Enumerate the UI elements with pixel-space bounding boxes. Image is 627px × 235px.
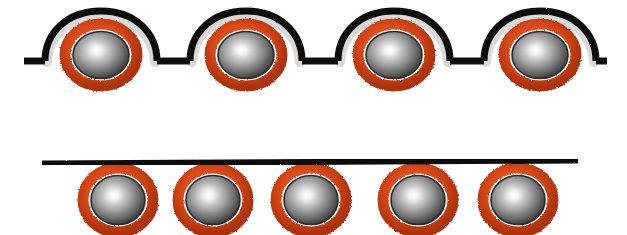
particle-core [91, 176, 145, 225]
particle-top-4 [504, 24, 576, 86]
particle-bottom-3 [276, 168, 346, 232]
particle-core [512, 32, 568, 79]
membrane-line-bottom [42, 161, 578, 164]
particle-core [366, 32, 422, 79]
particle-core [218, 32, 274, 79]
particle-top-1 [65, 24, 137, 86]
particle-top-3 [358, 24, 430, 86]
particle-core [73, 32, 129, 79]
particle-membrane-diagram [0, 0, 627, 235]
particle-bottom-1 [83, 168, 153, 232]
particle-top-2 [210, 24, 282, 86]
particle-core [284, 176, 338, 225]
particle-core [186, 176, 240, 225]
attached-particles-row [42, 161, 578, 233]
wrapped-particles-row [24, 11, 607, 86]
particle-bottom-2 [178, 168, 248, 232]
particle-bottom-4 [383, 168, 453, 232]
particle-bottom-5 [483, 168, 553, 232]
figure-root: Particles coated by a flexible membrane … [0, 0, 627, 235]
particle-core [491, 176, 545, 225]
particle-core [391, 176, 445, 225]
